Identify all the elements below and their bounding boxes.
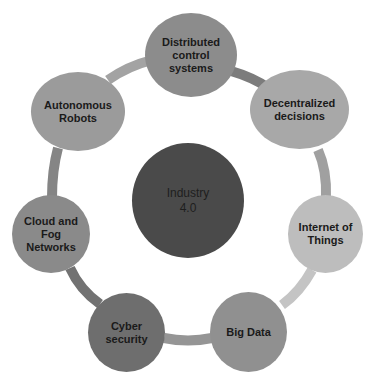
- node-label: Cyber security: [105, 320, 147, 346]
- node-label: Autonomous Robots: [44, 99, 112, 125]
- node-cloud-and-fog-networks: Cloud and Fog Networks: [12, 195, 90, 273]
- node-label: Internet of Things: [299, 221, 353, 247]
- node-label: Decentralized decisions: [264, 97, 336, 123]
- center-node-label: Industry 4.0: [167, 186, 210, 216]
- industry-4-diagram: Industry 4.0 Distributed control systems…: [0, 0, 372, 386]
- node-distributed-control-systems: Distributed control systems: [145, 13, 237, 97]
- ring-segment-bigdata-cyber: [164, 338, 212, 341]
- ring-segment-iot-bigdata: [282, 270, 312, 305]
- center-node-industry-4: Industry 4.0: [132, 143, 244, 258]
- node-label: Cloud and Fog Networks: [24, 215, 78, 254]
- node-big-data: Big Data: [210, 292, 287, 372]
- ring-segment-cyber-cloud: [70, 268, 100, 304]
- node-cyber-security: Cyber security: [88, 293, 165, 372]
- node-autonomous-robots: Autonomous Robots: [31, 72, 125, 151]
- node-internet-of-things: Internet of Things: [288, 195, 363, 273]
- node-label: Distributed control systems: [162, 36, 220, 75]
- ring-segment-decentralized-iot: [318, 150, 326, 198]
- node-label: Big Data: [226, 326, 271, 339]
- ring-segment-cloud-autonomous: [52, 148, 58, 198]
- node-decentralized-decisions: Decentralized decisions: [250, 70, 349, 149]
